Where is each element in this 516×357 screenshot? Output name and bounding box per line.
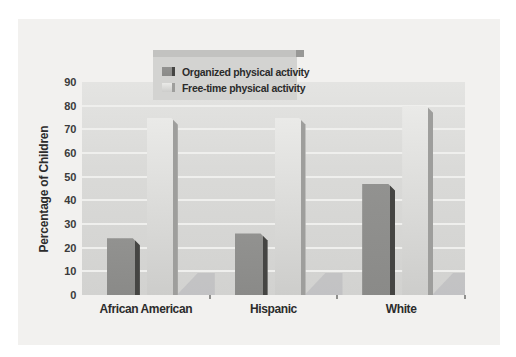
bar-shadow-african-american <box>177 273 215 295</box>
x-axis-tick <box>336 295 338 299</box>
y-tick-label: 40 <box>42 194 76 206</box>
bar-organized-physical-activity-hispanic <box>235 233 268 295</box>
legend-label: Organized physical activity <box>182 66 309 78</box>
y-tick-label: 30 <box>42 218 76 230</box>
bar-free-time-physical-activity-african-american <box>147 118 178 296</box>
y-tick-label: 90 <box>42 76 76 88</box>
y-tick-label: 50 <box>42 171 76 183</box>
x-axis-tick <box>464 295 466 299</box>
chart-panel: Percentage of Children Organized physica… <box>18 19 500 345</box>
legend-swatch-free-time-physical-activity <box>162 83 175 92</box>
legend-label: Free-time physical activity <box>182 82 305 94</box>
x-category-label-white: White <box>326 302 476 316</box>
y-tick-label: 60 <box>42 147 76 159</box>
bar-organized-physical-activity-african-american <box>107 238 140 295</box>
y-tick-label: 20 <box>42 242 76 254</box>
legend-swatch-organized-physical-activity <box>162 67 175 76</box>
legend-item-free-time-physical-activity: Free-time physical activity <box>162 82 287 94</box>
legend-roof-edge <box>153 50 304 57</box>
bar-organized-physical-activity-white <box>362 184 395 295</box>
y-tick-label: 10 <box>42 265 76 277</box>
bar-free-time-physical-activity-white <box>402 106 433 295</box>
legend-roof-corner <box>296 50 304 57</box>
legend-items: Organized physical activityFree-time phy… <box>153 57 297 100</box>
legend-item-organized-physical-activity: Organized physical activity <box>162 66 287 78</box>
legend: Organized physical activityFree-time phy… <box>153 50 297 100</box>
y-tick-label: 80 <box>42 100 76 112</box>
y-tick-label: 0 <box>42 289 76 301</box>
y-tick-label: 70 <box>42 123 76 135</box>
figure-root: Percentage of Children Organized physica… <box>0 0 516 357</box>
plot-area <box>82 82 465 295</box>
x-axis-tick <box>209 295 211 299</box>
bar-free-time-physical-activity-hispanic <box>275 118 306 296</box>
bar-shadow-white <box>432 273 465 295</box>
bar-shadow-hispanic <box>305 273 343 295</box>
